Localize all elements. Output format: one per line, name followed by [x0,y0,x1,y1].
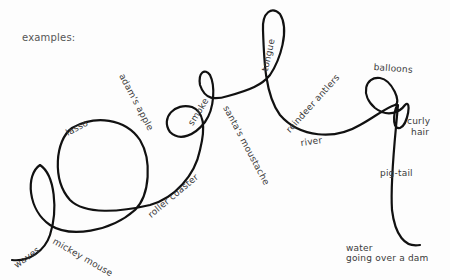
label-pig-tail: pig-tail [380,168,413,178]
label-curly-hair-line1: curly [407,116,430,126]
label-water-line1: water [346,243,373,253]
label-water-line2: going over a dam [346,253,429,263]
diagram-title: examples: [22,33,75,43]
label-curly-hair-line2: hair [411,127,429,137]
diagram-canvas: examples: lasso adam's apple smoke santa… [0,0,450,280]
